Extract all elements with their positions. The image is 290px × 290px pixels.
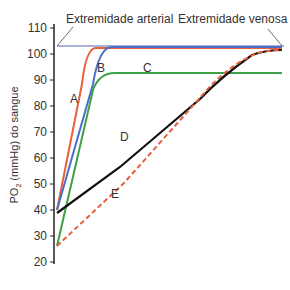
tick-110: 110 — [28, 21, 47, 35]
venous-end-label: Extremidade venosa — [178, 12, 288, 26]
tick-100: 100 — [27, 47, 47, 61]
tick-40: 40 — [34, 203, 48, 217]
venous-pointer — [268, 29, 282, 46]
tick-70: 70 — [34, 125, 48, 139]
tick-20: 20 — [34, 255, 48, 269]
label-d: D — [120, 130, 129, 144]
y-axis-label: PO2 (mmHg) do sangue — [8, 86, 22, 203]
tick-30: 30 — [34, 229, 48, 243]
label-b: B — [97, 61, 105, 75]
y-tick-labels: 110 100 90 80 70 60 50 40 30 20 — [27, 21, 47, 269]
label-e: E — [111, 187, 119, 201]
tick-50: 50 — [34, 177, 48, 191]
po2-chart: 110 100 90 80 70 60 50 40 30 20 PO2 (mmH… — [0, 0, 290, 290]
curve-e — [57, 50, 282, 246]
label-c: C — [143, 61, 152, 75]
arterial-pointer — [57, 27, 73, 46]
curve-c — [57, 73, 282, 246]
tick-60: 60 — [34, 151, 48, 165]
arterial-end-label: Extremidade arterial — [66, 12, 173, 26]
tick-90: 90 — [34, 73, 48, 87]
curve-b — [57, 47, 282, 210]
label-a: A — [70, 92, 78, 106]
tick-80: 80 — [34, 99, 48, 113]
